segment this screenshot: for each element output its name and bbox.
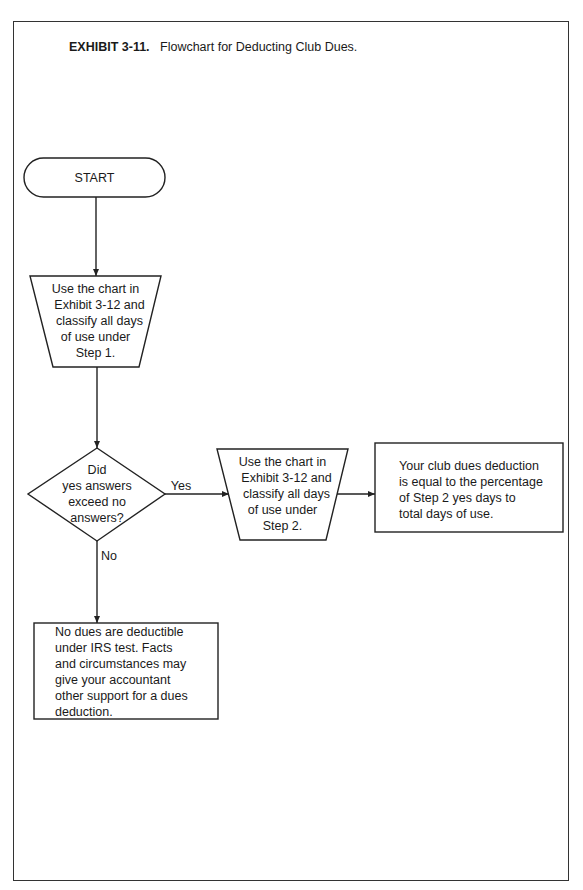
decision-line: answers? bbox=[37, 510, 157, 526]
result-no-text: No dues are deductible under IRS test. F… bbox=[55, 624, 188, 720]
decision-text: Did yes answers exceed no answers? bbox=[37, 462, 157, 526]
result-yes-line: total days of use. bbox=[399, 506, 543, 522]
decision-line: yes answers bbox=[37, 478, 157, 494]
step2-line: Use the chart in bbox=[217, 454, 348, 470]
result-no-line: under IRS test. Facts bbox=[55, 640, 188, 656]
no-edge-label: No bbox=[101, 548, 121, 564]
step1-text: Use the chart in Exhibit 3-12 and classi… bbox=[30, 281, 161, 361]
result-no-line: No dues are deductible bbox=[55, 624, 188, 640]
result-no-line: and circumstances may bbox=[55, 656, 188, 672]
step2-line: Exhibit 3-12 and bbox=[217, 470, 348, 486]
decision-line: Did bbox=[37, 462, 157, 478]
step2-line: classify all days bbox=[217, 486, 348, 502]
result-no-line: other support for a dues bbox=[55, 688, 188, 704]
step1-line: of use under bbox=[30, 329, 161, 345]
yes-text: Yes bbox=[166, 478, 196, 494]
step1-line: Use the chart in bbox=[30, 281, 161, 297]
step2-line: Step 2. bbox=[217, 518, 348, 534]
start-text: START bbox=[24, 170, 165, 186]
step1-line: classify all days bbox=[30, 313, 161, 329]
decision-line: exceed no bbox=[37, 494, 157, 510]
flowchart-canvas bbox=[0, 0, 583, 890]
result-no-line: give your accountant bbox=[55, 672, 188, 688]
result-no-line: deduction. bbox=[55, 704, 188, 720]
result-yes-line: is equal to the percentage bbox=[399, 474, 543, 490]
result-yes-line: of Step 2 yes days to bbox=[399, 490, 543, 506]
step2-text: Use the chart in Exhibit 3-12 and classi… bbox=[217, 454, 348, 534]
no-text: No bbox=[101, 548, 121, 564]
start-label: START bbox=[24, 170, 165, 186]
result-yes-line: Your club dues deduction bbox=[399, 458, 543, 474]
step1-line: Step 1. bbox=[30, 345, 161, 361]
step2-line: of use under bbox=[217, 502, 348, 518]
yes-edge-label: Yes bbox=[166, 478, 196, 494]
step1-line: Exhibit 3-12 and bbox=[30, 297, 161, 313]
result-yes-text: Your club dues deduction is equal to the… bbox=[399, 458, 543, 522]
